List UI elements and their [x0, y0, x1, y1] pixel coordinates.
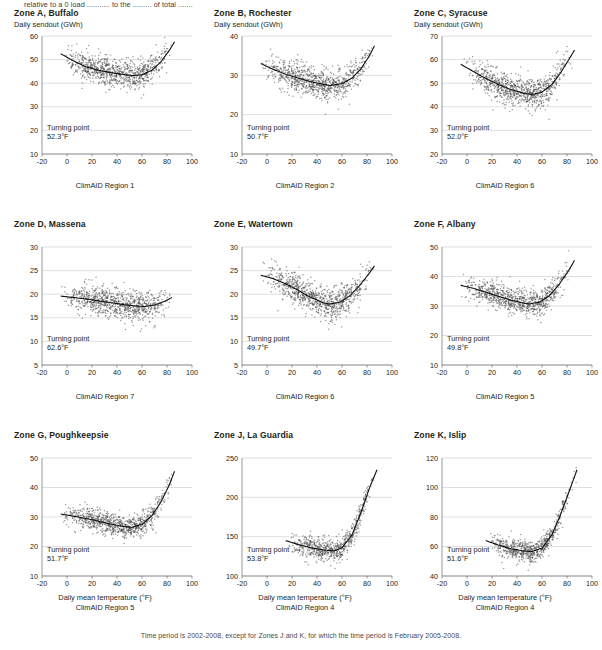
svg-text:10: 10 [30, 337, 38, 346]
panel-zone-e: Zone E, Watertown51015202530-20020406080… [212, 219, 398, 402]
svg-text:250: 250 [226, 454, 238, 463]
panel-region-label: ClimAID Region 5 [12, 603, 198, 613]
svg-text:30: 30 [230, 243, 238, 252]
panel-ylabel [214, 231, 398, 240]
panel-zone-d: Zone D, Massena51015202530-2002040608010… [12, 219, 198, 402]
svg-text:40: 40 [230, 32, 238, 41]
svg-text:60: 60 [338, 368, 346, 377]
turning-point-label: Turning point [447, 334, 489, 343]
panel-xlabel: Daily mean temperature (°F) [412, 593, 598, 603]
svg-text:80: 80 [163, 579, 171, 588]
svg-text:0: 0 [65, 579, 69, 588]
svg-text:20: 20 [288, 368, 296, 377]
svg-text:-20: -20 [437, 368, 447, 377]
svg-text:80: 80 [563, 157, 571, 166]
svg-text:100: 100 [386, 579, 398, 588]
panel-title: Zone J, La Guardia [214, 430, 398, 440]
svg-text:50: 50 [30, 454, 38, 463]
svg-text:40: 40 [430, 272, 438, 281]
svg-text:100: 100 [586, 579, 598, 588]
svg-text:15: 15 [230, 313, 238, 322]
svg-text:0: 0 [265, 368, 269, 377]
plot-area: 406080100120-20020406080100Turning point… [412, 452, 598, 592]
svg-text:25: 25 [230, 266, 238, 275]
panel-region-label: ClimAID Region 6 [412, 181, 598, 191]
svg-text:20: 20 [430, 331, 438, 340]
panel-grid: Zone A, BuffaloDaily sendout (GWh)102030… [0, 8, 602, 641]
panel-zone-g: Zone G, Poughkeepsie1020304050-200204060… [12, 430, 198, 613]
svg-text:80: 80 [563, 368, 571, 377]
svg-text:50: 50 [30, 55, 38, 64]
panel-ylabel: Daily sendout (GWh) [14, 20, 198, 29]
svg-text:20: 20 [488, 157, 496, 166]
svg-text:-20: -20 [437, 157, 447, 166]
svg-text:20: 20 [230, 110, 238, 119]
svg-text:20: 20 [88, 368, 96, 377]
svg-text:30: 30 [230, 71, 238, 80]
scatter-points [262, 47, 373, 115]
turning-point-value: 51.7°F [47, 554, 69, 563]
svg-text:10: 10 [230, 337, 238, 346]
svg-text:-20: -20 [237, 579, 247, 588]
svg-text:100: 100 [186, 157, 198, 166]
turning-point-label: Turning point [447, 545, 489, 554]
scatter-points [61, 277, 170, 333]
panel-ylabel [414, 231, 598, 240]
panel-ylabel [214, 442, 398, 451]
panel-title: Zone F, Albany [414, 219, 598, 229]
svg-text:20: 20 [488, 368, 496, 377]
panel-title: Zone G, Poughkeepsie [14, 430, 198, 440]
panel-title: Zone B, Rochester [214, 8, 398, 18]
svg-text:100: 100 [386, 368, 398, 377]
svg-text:80: 80 [430, 513, 438, 522]
svg-text:-20: -20 [237, 157, 247, 166]
svg-text:80: 80 [163, 157, 171, 166]
svg-text:-20: -20 [37, 157, 47, 166]
svg-text:60: 60 [138, 579, 146, 588]
panel-zone-c: Zone C, SyracuseDaily sendout (GWh)20304… [412, 8, 598, 191]
svg-text:20: 20 [288, 579, 296, 588]
svg-text:0: 0 [465, 579, 469, 588]
svg-text:20: 20 [30, 126, 38, 135]
panel-region-label: ClimAID Region 4 [412, 603, 598, 613]
svg-text:80: 80 [163, 368, 171, 377]
figure-page: relative to a 0 load ........... to the … [0, 0, 602, 650]
svg-text:40: 40 [513, 368, 521, 377]
svg-text:60: 60 [138, 157, 146, 166]
turning-point-label: Turning point [247, 123, 289, 132]
svg-text:80: 80 [363, 157, 371, 166]
svg-text:-20: -20 [37, 368, 47, 377]
svg-text:-20: -20 [437, 579, 447, 588]
svg-text:40: 40 [430, 102, 438, 111]
svg-text:40: 40 [30, 483, 38, 492]
panel-ylabel: Daily sendout (GWh) [214, 20, 398, 29]
svg-text:30: 30 [430, 126, 438, 135]
panel-title: Zone E, Watertown [214, 219, 398, 229]
plot-area: 51015202530-20020406080100Turning point4… [212, 241, 398, 381]
plot-area: 51015202530-20020406080100Turning point6… [12, 241, 198, 381]
svg-text:30: 30 [30, 513, 38, 522]
panel-xlabel [412, 171, 598, 181]
svg-text:100: 100 [426, 483, 438, 492]
svg-text:100: 100 [586, 157, 598, 166]
svg-text:15: 15 [30, 313, 38, 322]
svg-text:40: 40 [113, 579, 121, 588]
svg-text:20: 20 [230, 290, 238, 299]
svg-text:100: 100 [386, 157, 398, 166]
turning-point-value: 49.8°F [447, 343, 469, 352]
panel-container: Zone B, RochesterDaily sendout (GWh)1020… [212, 8, 398, 191]
svg-text:120: 120 [426, 454, 438, 463]
svg-text:70: 70 [430, 32, 438, 41]
svg-text:60: 60 [430, 542, 438, 551]
svg-text:30: 30 [430, 302, 438, 311]
svg-text:0: 0 [265, 157, 269, 166]
svg-text:60: 60 [338, 157, 346, 166]
svg-text:100: 100 [586, 368, 598, 377]
svg-text:0: 0 [65, 368, 69, 377]
plot-area: 203040506070-20020406080100Turning point… [412, 30, 598, 170]
svg-text:100: 100 [186, 368, 198, 377]
panel-container: Zone C, SyracuseDaily sendout (GWh)20304… [412, 8, 598, 191]
scatter-points [464, 46, 573, 120]
plot-area: 1020304050-20020406080100Turning point51… [12, 452, 198, 592]
svg-text:20: 20 [88, 579, 96, 588]
